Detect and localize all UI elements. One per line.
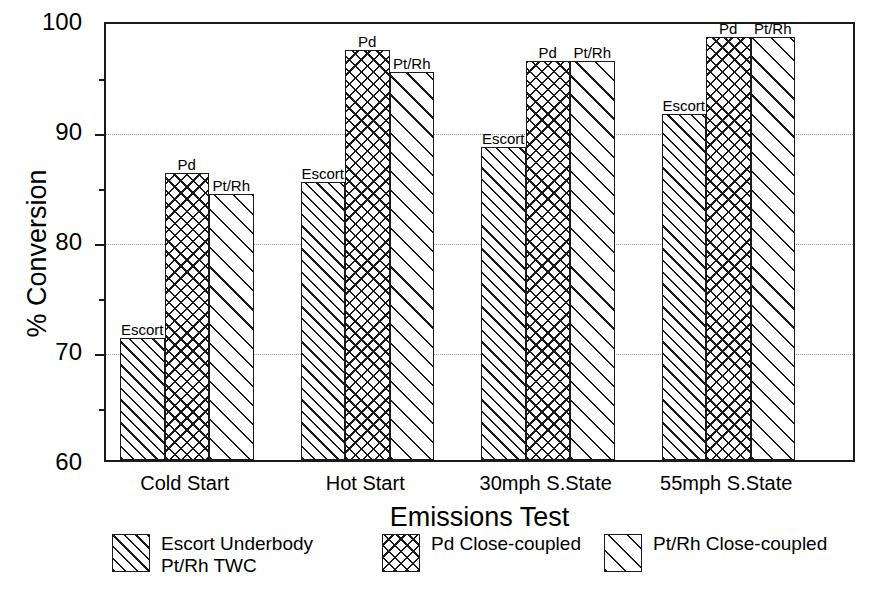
- bar: [345, 50, 390, 460]
- legend-entry: Escort Underbody Pt/Rh TWC: [112, 533, 313, 578]
- y-tick-minor: [99, 409, 106, 411]
- bar-chart-figure: % Conversion 60708090100 EscortPdPt/RhEs…: [0, 0, 877, 597]
- legend-swatch: [112, 534, 150, 572]
- legend-label: Pd Close-coupled: [431, 533, 581, 555]
- y-tick-major: [95, 244, 106, 246]
- y-tick-label: 60: [0, 450, 94, 474]
- y-tick-major: [95, 134, 106, 136]
- bar: [751, 37, 796, 461]
- y-tick-minor: [99, 189, 106, 191]
- y-tick-minor: [99, 79, 106, 81]
- y-tick-major: [95, 354, 106, 356]
- legend-entry: Pd Close-coupled: [382, 533, 581, 572]
- bar: [390, 72, 435, 460]
- bar: [301, 182, 346, 460]
- bar-annotation-label: Pd: [141, 157, 233, 172]
- bar-annotation-label: Pt/Rh: [727, 21, 819, 36]
- legend-label: Escort Underbody Pt/Rh TWC: [161, 533, 313, 578]
- legend-entry: Pt/Rh Close-coupled: [604, 533, 827, 572]
- plot-area: EscortPdPt/RhEscortPdPt/RhEscortPdPt/RhE…: [104, 22, 855, 462]
- y-tick-label: 100: [0, 10, 94, 34]
- y-tick-minor: [99, 299, 106, 301]
- bar-annotation-label: Pd: [321, 34, 413, 49]
- bar: [209, 194, 254, 460]
- bar-annotation-label: Escort: [277, 166, 369, 181]
- legend-label: Pt/Rh Close-coupled: [653, 533, 827, 555]
- bar-annotation-label: Escort: [96, 322, 188, 337]
- bar-annotation-label: Pt/Rh: [366, 56, 458, 71]
- bar-annotation-label: Escort: [638, 98, 730, 113]
- bar: [481, 147, 526, 461]
- x-axis-title: Emissions Test: [104, 502, 855, 533]
- bar: [526, 61, 571, 460]
- legend-swatch: [382, 534, 420, 572]
- y-tick-label: 70: [0, 340, 94, 364]
- bar-annotation-label: Pt/Rh: [185, 178, 277, 193]
- bar: [165, 173, 210, 460]
- bar-annotation-label: Pt/Rh: [546, 45, 638, 60]
- bar: [120, 338, 165, 460]
- bar: [662, 114, 707, 461]
- legend-swatch: [604, 534, 642, 572]
- bar-annotation-label: Escort: [457, 131, 549, 146]
- bar: [570, 61, 615, 460]
- x-axis-category-label: 55mph S.State: [616, 472, 836, 495]
- chart-legend: Escort Underbody Pt/Rh TWCPd Close-coupl…: [104, 533, 855, 589]
- y-tick-label: 80: [0, 230, 94, 254]
- y-tick-label: 90: [0, 120, 94, 144]
